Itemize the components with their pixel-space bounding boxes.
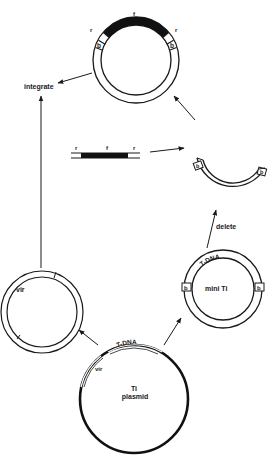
arrow-ti-to-vir xyxy=(79,330,98,345)
b-right-label: b xyxy=(257,285,261,291)
b-right-label: b xyxy=(170,42,174,49)
delete-label: delete xyxy=(216,223,236,230)
vir-plasmid: vir xyxy=(1,271,83,353)
f-block xyxy=(81,153,128,158)
r-right-label: r xyxy=(175,27,178,33)
tdna-label: T-DNA xyxy=(198,253,220,268)
arrow-to-integrate xyxy=(58,73,92,83)
ti-plasmid: T-DNA vir Ti plasmid xyxy=(80,338,188,453)
arrow-delete xyxy=(207,210,216,248)
r-left-label: r xyxy=(90,27,93,33)
ti-label: Ti xyxy=(131,385,137,392)
mini-ti-label: mini Ti xyxy=(205,285,227,292)
r-left-label: r xyxy=(75,145,78,151)
arrow-deleted-to-top xyxy=(174,96,195,120)
arrow-linear-to-deleted xyxy=(150,148,184,152)
r-right-label: r xyxy=(133,145,136,151)
diagram-canvas: b b r f r integrate r f r b b delete xyxy=(0,0,277,460)
f-label: f xyxy=(106,145,109,151)
b-left-label: b xyxy=(184,285,188,291)
integrate-label: integrate xyxy=(24,83,54,91)
plasmid-label: plasmid xyxy=(122,393,148,401)
vir-label: vir xyxy=(16,286,25,293)
b-left-label: b xyxy=(97,42,101,49)
f-label: f xyxy=(133,11,136,17)
mini-ti-plasmid: b b T-DNA mini Ti xyxy=(182,250,264,328)
linear-fragment: r f r xyxy=(71,145,140,158)
deleted-plasmid: b b xyxy=(193,158,266,186)
vir-label: vir xyxy=(95,366,103,372)
arrow-ti-to-miniti xyxy=(164,318,181,345)
top-plasmid: b b r f r xyxy=(90,11,179,103)
